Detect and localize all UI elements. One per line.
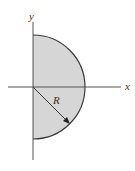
x-axis-label: x — [124, 80, 130, 92]
radius-label: R — [52, 94, 60, 106]
semicircle-diagram: y x R — [0, 0, 135, 171]
y-axis-label: y — [28, 10, 34, 22]
